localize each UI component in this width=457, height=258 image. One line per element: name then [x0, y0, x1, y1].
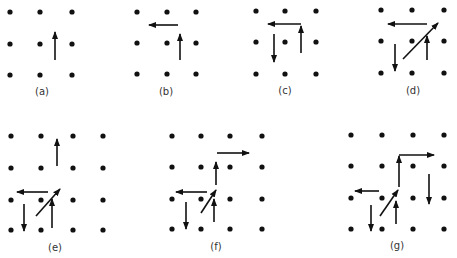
lattice-dot [198, 226, 203, 231]
lattice-dot [100, 133, 105, 138]
lattice-dot [134, 9, 139, 14]
panel-label: (a) [35, 86, 49, 97]
lattice-dot [441, 195, 446, 200]
lattice-dot [282, 39, 287, 44]
lattice-dot [313, 8, 318, 13]
lattice-dot [164, 71, 169, 76]
panel-d: (d) [378, 7, 446, 96]
lattice-dot [193, 9, 198, 14]
lattice-dot [198, 133, 203, 138]
lattice-dot [38, 133, 43, 138]
lattice-dot [410, 226, 415, 231]
lattice-dot [227, 133, 232, 138]
lattice-dot [38, 165, 43, 170]
lattice-dot [441, 7, 446, 12]
panel-label: (e) [48, 242, 62, 253]
lattice-dot [8, 165, 13, 170]
lattice-dot [441, 132, 446, 137]
panel-e: (e) [8, 133, 105, 253]
lattice-dot [70, 227, 75, 232]
lattice-dot [410, 132, 415, 137]
lattice-dot [169, 164, 174, 169]
lattice-dot [69, 72, 74, 77]
lattice-dot [348, 226, 353, 231]
lattice-dot [37, 41, 42, 46]
lattice-dot [348, 132, 353, 137]
lattice-dot [70, 133, 75, 138]
lattice-dot [253, 71, 258, 76]
lattice-dot [227, 164, 232, 169]
lattice-dot [409, 38, 414, 43]
panel-label: (d) [406, 85, 420, 96]
random-walk-diagram: (a)(b)(c)(d)(e)(f)(g) [0, 0, 457, 258]
lattice-dot [313, 39, 318, 44]
lattice-dot [378, 70, 383, 75]
lattice-dot [37, 72, 42, 77]
lattice-dot [379, 163, 384, 168]
panel-b: (b) [134, 9, 198, 97]
lattice-dot [169, 196, 174, 201]
lattice-dot [259, 196, 264, 201]
lattice-dot [441, 70, 446, 75]
step-arrow-icon [36, 189, 60, 216]
lattice-dot [198, 196, 203, 201]
lattice-dot [378, 38, 383, 43]
lattice-dot [441, 163, 446, 168]
lattice-dot [348, 163, 353, 168]
lattice-dot [313, 71, 318, 76]
panel-label: (g) [390, 240, 404, 251]
lattice-dot [227, 196, 232, 201]
lattice-dot [259, 164, 264, 169]
panel-label: (f) [210, 241, 221, 252]
lattice-dot [379, 226, 384, 231]
lattice-dot [253, 39, 258, 44]
lattice-dot [100, 227, 105, 232]
lattice-dot [7, 9, 12, 14]
lattice-dot [8, 197, 13, 202]
lattice-dot [410, 163, 415, 168]
lattice-dot [164, 9, 169, 14]
lattice-dot [169, 133, 174, 138]
lattice-dot [193, 40, 198, 45]
lattice-dot [259, 226, 264, 231]
lattice-dot [282, 71, 287, 76]
lattice-dot [8, 133, 13, 138]
lattice-dot [100, 197, 105, 202]
lattice-dot [69, 9, 74, 14]
lattice-dot [100, 165, 105, 170]
lattice-dot [253, 8, 258, 13]
panels: (a)(b)(c)(d)(e)(f)(g) [7, 7, 446, 253]
panel-label: (c) [278, 85, 291, 96]
lattice-dot [193, 71, 198, 76]
lattice-dot [70, 197, 75, 202]
lattice-dot [227, 226, 232, 231]
panel-f: (f) [169, 133, 264, 252]
lattice-dot [134, 71, 139, 76]
lattice-dot [7, 41, 12, 46]
lattice-dot [379, 132, 384, 137]
lattice-dot [38, 227, 43, 232]
lattice-dot [378, 7, 383, 12]
lattice-dot [409, 7, 414, 12]
lattice-dot [164, 40, 169, 45]
lattice-dot [37, 9, 42, 14]
lattice-dot [441, 226, 446, 231]
lattice-dot [348, 195, 353, 200]
lattice-dot [70, 165, 75, 170]
panel-g: (g) [348, 132, 446, 251]
lattice-dot [409, 70, 414, 75]
panel-label: (b) [159, 86, 173, 97]
lattice-dot [7, 72, 12, 77]
panel-a: (a) [7, 9, 74, 97]
lattice-dot [69, 41, 74, 46]
panel-c: (c) [253, 8, 318, 96]
lattice-dot [169, 226, 174, 231]
step-arrow-icon [403, 23, 438, 59]
lattice-dot [410, 195, 415, 200]
lattice-dot [379, 195, 384, 200]
lattice-dot [282, 8, 287, 13]
lattice-dot [8, 227, 13, 232]
lattice-dot [441, 38, 446, 43]
lattice-dot [259, 133, 264, 138]
lattice-dot [198, 164, 203, 169]
